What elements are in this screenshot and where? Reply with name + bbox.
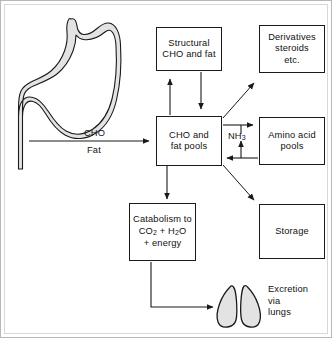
label-excretion-via-lungs: Excretion via lungs bbox=[268, 284, 308, 319]
arrow-catabolism-to-lungs bbox=[151, 262, 213, 307]
lungs-icon bbox=[217, 286, 260, 327]
arrow-central-to-derivatives bbox=[223, 83, 254, 118]
node-catabolism-line-1: Catabolism to bbox=[130, 214, 195, 226]
node-catabolism-line-3: + energy bbox=[130, 238, 195, 250]
node-central-line-2: fat pools bbox=[157, 141, 221, 153]
label-fat: Fat bbox=[87, 145, 101, 157]
node-derivatives-steroids[interactable]: Derivatives steroids etc. bbox=[259, 25, 325, 73]
label-excretion-line-2: via bbox=[268, 296, 308, 308]
label-excretion-line-3: lungs bbox=[268, 307, 308, 319]
node-amino-line-2: pools bbox=[260, 141, 324, 153]
node-structural-cho-and-fat[interactable]: Structural CHO and fat bbox=[156, 27, 222, 71]
node-structural-line-1: Structural bbox=[157, 38, 221, 50]
diagram-canvas: Structural CHO and fat Derivatives stero… bbox=[0, 0, 332, 338]
label-cho: CHO bbox=[84, 128, 105, 140]
node-catabolism-line-2: CO2 + H2O bbox=[130, 226, 195, 239]
label-excretion-line-1: Excretion bbox=[268, 284, 308, 296]
label-nh3: NH3 bbox=[228, 131, 246, 144]
node-storage[interactable]: Storage bbox=[259, 204, 325, 259]
node-amino-line-1: Amino acid bbox=[260, 130, 324, 142]
node-catabolism[interactable]: Catabolism to CO2 + H2O + energy bbox=[129, 203, 196, 261]
arrow-central-to-storage bbox=[223, 165, 254, 200]
node-derivatives-line-2: steroids bbox=[260, 43, 324, 55]
node-cho-and-fat-pools[interactable]: CHO and fat pools bbox=[156, 116, 222, 166]
node-structural-line-2: CHO and fat bbox=[157, 49, 221, 61]
node-amino-acid-pools[interactable]: Amino acid pools bbox=[259, 117, 325, 165]
stomach-icon bbox=[19, 19, 121, 169]
node-storage-line-1: Storage bbox=[260, 226, 324, 238]
node-derivatives-line-1: Derivatives bbox=[260, 32, 324, 44]
node-central-line-1: CHO and bbox=[157, 130, 221, 142]
node-derivatives-line-3: etc. bbox=[260, 55, 324, 67]
